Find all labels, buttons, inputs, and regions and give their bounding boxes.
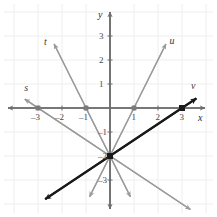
line-label-s: s	[24, 83, 28, 93]
coordinate-plane-figure: –3–2–1123321–1–2–3xystuv	[0, 0, 217, 217]
line-v-arrow-start	[45, 98, 196, 199]
marked-point-origin-shift	[107, 153, 113, 159]
line-u-arrow-start	[90, 44, 166, 197]
graph-canvas	[0, 0, 217, 217]
x-tick-label--3: –3	[31, 113, 40, 122]
y-axis-label: y	[98, 10, 102, 20]
y-tick-label--3: –3	[98, 176, 107, 185]
y-tick-label--1: –1	[98, 128, 107, 137]
y-tick-label--2: –2	[98, 152, 107, 161]
x-axis-label: x	[198, 113, 202, 123]
marked-point-s	[36, 106, 41, 111]
marked-point-t	[84, 106, 89, 111]
line-label-v: v	[191, 81, 195, 91]
x-tick-label--1: –1	[79, 113, 88, 122]
x-tick-label-2: 2	[156, 113, 161, 122]
x-tick-label--2: –2	[55, 113, 64, 122]
y-tick-label-2: 2	[99, 56, 104, 65]
marked-point-v	[179, 105, 185, 111]
marked-point-u	[132, 106, 137, 111]
line-label-t: t	[44, 37, 47, 47]
y-tick-label-3: 3	[99, 32, 104, 41]
x-tick-label-1: 1	[132, 113, 137, 122]
x-tick-label-3: 3	[180, 113, 185, 122]
y-tick-label-1: 1	[99, 80, 104, 89]
line-label-u: u	[169, 36, 174, 46]
line-t-arrow-start	[54, 44, 130, 197]
